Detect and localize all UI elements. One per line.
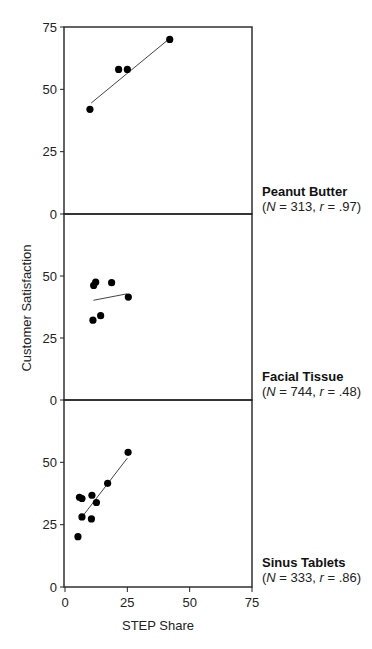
data-point (108, 279, 115, 286)
data-point (104, 480, 111, 487)
data-points (74, 36, 173, 540)
y-tick-label: 0 (50, 207, 57, 222)
data-point (78, 513, 85, 520)
data-point (124, 449, 131, 456)
x-tick-label: 75 (245, 595, 259, 610)
data-point (86, 106, 93, 113)
x-tick-label: 25 (120, 595, 134, 610)
panel-label-sinus-tablets: Sinus Tablets (N = 333, r = .86) (262, 555, 361, 585)
panel-frame (64, 214, 252, 400)
panel-label-facial-tissue: Facial Tissue (N = 744, r = .48) (262, 369, 361, 399)
y-tick-label: 25 (43, 331, 57, 346)
axis-ticks: 025507502550025500255075 (43, 20, 260, 611)
x-tick-label: 50 (182, 595, 196, 610)
panel-stats: (N = 744, r = .48) (262, 384, 361, 399)
panel-title: Sinus Tablets (262, 555, 346, 570)
y-tick-label: 25 (43, 517, 57, 532)
fit-line (80, 458, 127, 520)
y-axis-title: Customer Satisfaction (19, 244, 34, 371)
y-tick-label: 0 (50, 580, 57, 595)
y-tick-label: 75 (43, 20, 57, 35)
data-point (74, 533, 81, 540)
data-point (124, 66, 131, 73)
data-point (125, 293, 132, 300)
n-value: = 744, (276, 384, 320, 399)
panel-stats: (N = 333, r = .86) (262, 570, 361, 585)
data-point (78, 495, 85, 502)
panel-frame (64, 27, 252, 214)
n-value: = 333, (276, 570, 320, 585)
y-tick-label: 25 (43, 144, 57, 159)
data-point (115, 66, 122, 73)
scatter-chart: 025507502550025500255075 Customer Satisf… (0, 0, 372, 649)
data-point (166, 36, 173, 43)
fit-line (93, 294, 126, 300)
panel-label-peanut-butter: Peanut Butter (N = 313, r = .97) (262, 184, 361, 214)
panel-title: Peanut Butter (262, 184, 347, 199)
x-tick-label: 0 (61, 595, 68, 610)
data-point (88, 492, 95, 499)
data-point (88, 515, 95, 522)
y-tick-label: 50 (43, 455, 57, 470)
data-point (97, 312, 104, 319)
data-point (90, 282, 97, 289)
y-tick-label: 50 (43, 269, 57, 284)
data-point (93, 499, 100, 506)
r-value: = .86) (324, 570, 361, 585)
y-tick-label: 50 (43, 82, 57, 97)
r-value: = .97) (324, 199, 361, 214)
data-point (89, 317, 96, 324)
r-value: = .48) (324, 384, 361, 399)
panel-title: Facial Tissue (262, 369, 343, 384)
panel-stats: (N = 313, r = .97) (262, 199, 361, 214)
x-axis-title: STEP Share (122, 618, 194, 633)
y-tick-label: 0 (50, 393, 57, 408)
n-value: = 313, (276, 199, 320, 214)
